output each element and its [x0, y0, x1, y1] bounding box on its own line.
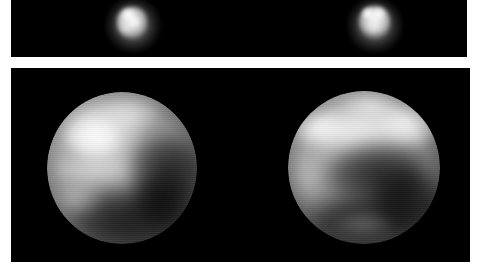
dark-region-left-southeast: [133, 174, 195, 230]
pluto-globe-left: [47, 92, 197, 244]
bright-spot-right-northwest: [294, 113, 346, 143]
pluto-image-figure: [0, 0, 486, 269]
raw-dim-knot-left: [119, 23, 132, 34]
pluto-globe-right: [288, 91, 440, 244]
pluto-raw-right: [347, 0, 403, 53]
bright-sliver-right-west: [288, 149, 322, 205]
bright-spot-left-southwest: [57, 184, 101, 214]
bright-arc-right-south: [332, 213, 394, 239]
bright-spot-left-top-center: [103, 96, 159, 130]
raw-dim-knot-right: [364, 21, 382, 33]
pluto-raw-left: [105, 0, 161, 53]
panel-processed-hemispheres: [11, 68, 470, 262]
bright-spot-right-north-pole: [344, 91, 400, 117]
panel-raw-telescope-frames: [11, 0, 467, 57]
raw-bright-knot-right-2: [373, 8, 385, 19]
